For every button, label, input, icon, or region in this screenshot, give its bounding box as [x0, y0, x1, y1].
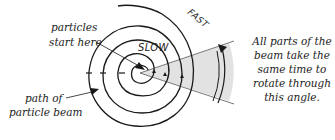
label-path-of-beam-line1: path of — [25, 92, 65, 104]
label-fast: FAST — [186, 7, 212, 31]
explanation-line3: same time to — [258, 63, 327, 75]
cyclotron-spiral-diagram: particles start here path of particle be… — [0, 0, 335, 140]
label-slow: SLOW — [138, 42, 169, 53]
explanation-line5: this angle. — [264, 91, 320, 103]
explanation-line2: beam take the — [254, 49, 330, 61]
label-particles-start-line2: start here — [49, 36, 102, 48]
path-pointer-line — [66, 92, 92, 98]
path-pointer-arrowhead — [90, 88, 99, 95]
label-path-of-beam-line2: particle beam — [9, 106, 83, 118]
label-particles-start-line1: particles — [51, 21, 98, 33]
explanation-line4: rotate through — [253, 77, 331, 89]
explanation-line1: All parts of the — [251, 35, 331, 47]
